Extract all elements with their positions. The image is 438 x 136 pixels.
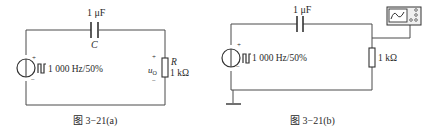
capacitor-value-b: 1 μF (293, 4, 312, 15)
source-minus-b: − (236, 63, 240, 71)
output-plus-a: + (152, 53, 156, 61)
source-label-b: 1 000 Hz/50% (252, 53, 307, 63)
output-voltage-a: uO (148, 65, 158, 76)
capacitor-value-a: 1 μF (87, 7, 106, 18)
figure-a: 1 μF C + − 1 000 Hz/50% + uO − R 1 kΩ 图 … (17, 7, 189, 127)
source-plus-b: + (237, 41, 241, 49)
resistor-value-b: 1 kΩ (378, 53, 397, 63)
capacitor-symbol-a: C (91, 39, 98, 50)
resistor-b (369, 48, 375, 67)
figure-b: 1 μF + − 1 000 Hz/50% 1 kΩ 图 3−21(b) (222, 4, 421, 127)
resistor-a (162, 58, 168, 77)
resistor-symbol-a: R (170, 57, 177, 67)
caption-a: 图 3−21(a) (73, 115, 117, 127)
source-minus-a: − (31, 76, 35, 84)
capacitor-b (297, 16, 303, 32)
resistor-value-a: 1 kΩ (170, 68, 189, 78)
circuit-figures: 1 μF C + − 1 000 Hz/50% + uO − R 1 kΩ 图 … (0, 0, 438, 136)
source-label-a: 1 000 Hz/50% (48, 64, 103, 74)
oscilloscope-icon (387, 7, 421, 25)
source-plus-a: + (32, 54, 36, 62)
square-wave-icon-a (38, 64, 46, 73)
output-minus-a: − (152, 77, 156, 85)
square-wave-icon-b (243, 54, 251, 63)
caption-b: 图 3−21(b) (290, 115, 335, 127)
capacitor-a (91, 22, 98, 38)
